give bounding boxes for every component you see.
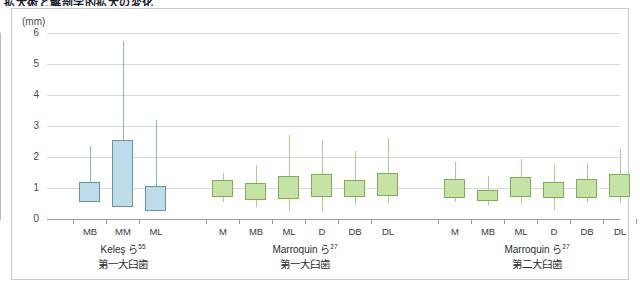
- x-tick: [272, 219, 273, 224]
- x-tick: [305, 219, 306, 224]
- group-caption-subtitle: 第二大臼歯: [427, 257, 640, 271]
- group-caption-reference: 55: [138, 243, 145, 250]
- box-body: [444, 179, 465, 198]
- x-tick: [537, 219, 538, 224]
- x-axis-line: [47, 219, 620, 220]
- box-body: [112, 140, 133, 207]
- x-tick: [438, 219, 439, 224]
- box-body: [278, 176, 299, 199]
- box-body: [145, 186, 166, 211]
- x-tick: [73, 219, 74, 224]
- x-tick: [504, 219, 505, 224]
- group-caption: Marroquin ら27第一大臼歯: [195, 243, 415, 271]
- gridline: [47, 126, 620, 127]
- y-tick-label: 5: [17, 58, 39, 69]
- x-tick: [636, 219, 637, 224]
- group-caption-source: Marroquin ら27: [195, 243, 415, 257]
- gridline: [47, 64, 620, 65]
- page-title: 拡大術と解剖学的拡大の変化: [4, 0, 154, 6]
- box-body: [212, 180, 233, 197]
- chart-frame: [11, 8, 629, 280]
- group-caption: Marroquin ら27第二大臼歯: [427, 243, 640, 271]
- x-tick-label: DL: [600, 226, 640, 237]
- y-tick-label: 4: [17, 89, 39, 100]
- gridline: [47, 95, 620, 96]
- x-tick-label: ML: [136, 226, 176, 237]
- x-tick: [239, 219, 240, 224]
- x-tick: [471, 219, 472, 224]
- y-axis-unit-label: (mm): [22, 16, 45, 27]
- y-tick-label: 2: [17, 151, 39, 162]
- whisker-line: [289, 135, 290, 211]
- box-body: [79, 182, 100, 202]
- y-tick-label: 0: [17, 213, 39, 224]
- gridline: [47, 33, 620, 34]
- y-tick-label: 3: [17, 120, 39, 131]
- chart-page: 拡大術と解剖学的拡大の変化 (mm) 0123456 MBMMMLMMBMLDD…: [0, 0, 640, 287]
- group-caption-reference: 27: [330, 243, 337, 250]
- x-tick-label: DL: [368, 226, 408, 237]
- y-axis-line: [0, 33, 1, 220]
- x-tick: [371, 219, 372, 224]
- group-caption-subtitle: 第一大臼歯: [195, 257, 415, 271]
- box-body: [576, 179, 597, 198]
- x-tick: [139, 219, 140, 224]
- box-body: [245, 183, 266, 200]
- box-body: [344, 180, 365, 197]
- x-tick: [106, 219, 107, 224]
- group-caption-reference: 27: [562, 243, 569, 250]
- group-caption-source: Marroquin ら27: [427, 243, 640, 257]
- y-tick-label: 1: [17, 182, 39, 193]
- box-body: [477, 190, 498, 201]
- x-tick: [603, 219, 604, 224]
- box-body: [377, 173, 398, 196]
- x-tick: [206, 219, 207, 224]
- box-body: [311, 174, 332, 197]
- y-tick-label: 6: [17, 27, 39, 38]
- box-body: [543, 182, 564, 198]
- box-body: [510, 177, 531, 197]
- box-body: [609, 174, 630, 197]
- x-tick: [570, 219, 571, 224]
- x-tick: [338, 219, 339, 224]
